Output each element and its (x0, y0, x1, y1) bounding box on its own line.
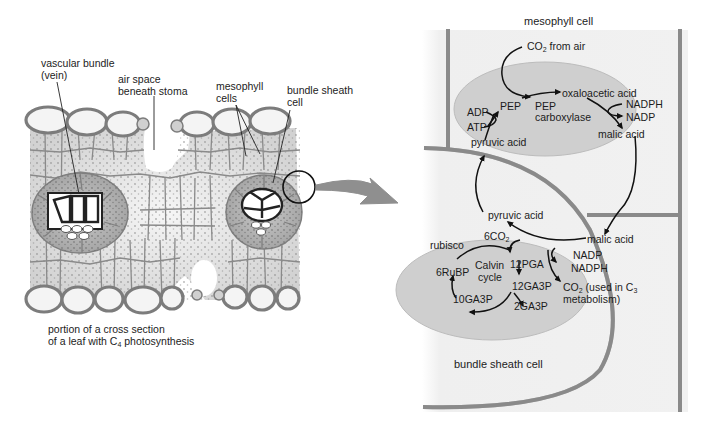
label-nadp-meso: NADP (626, 111, 655, 123)
c4-pathway-diagram (0, 0, 706, 434)
label-12ga3p: 12GA3P (512, 280, 552, 292)
label-rubisco: rubisco (430, 239, 464, 251)
label-12pga: 12PGA (510, 258, 544, 270)
label-pyruvic-acid-meso: pyruvic acid (471, 136, 526, 148)
label-calvin: Calvin (475, 259, 504, 271)
label-2ga3p: 2GA3P (514, 300, 548, 312)
label-bundle-sheath-cell-panel: bundle sheath cell (454, 358, 543, 370)
label-nadph-meso: NADPH (626, 98, 663, 110)
label-co2-from-air: CO2 from air (527, 40, 585, 52)
label-pyruvic-acid-bs: pyruvic acid (488, 209, 543, 221)
label-malic-acid-bs: malic acid (587, 233, 634, 245)
label-adp: ADP (467, 106, 489, 118)
label-malic-acid-meso: malic acid (598, 128, 645, 140)
label-cycle: cycle (478, 271, 502, 283)
label-mesophyll-cell: mesophyll cell (524, 15, 593, 27)
bundle-sheath-chloroplast (396, 240, 588, 340)
label-atp: ATP (467, 121, 487, 133)
label-6co2: 6CO2 (484, 230, 510, 242)
label-nadp-bs: NADP (573, 249, 602, 261)
label-metabolism: metabolism) (563, 293, 620, 305)
label-nadph-bs: NADPH (571, 262, 608, 274)
label-6rubp: 6RuBP (436, 266, 469, 278)
label-co2-used-c3: CO2 (used in C3 (563, 281, 637, 293)
label-10ga3p: 10GA3P (453, 293, 493, 305)
label-pep: PEP (500, 100, 521, 112)
label-pep-carboxylase-2: carboxylase (535, 111, 591, 123)
